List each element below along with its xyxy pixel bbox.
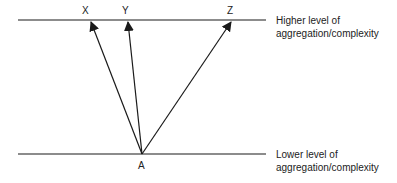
lower-level-label-line2: aggregation/complexity <box>276 161 379 174</box>
higher-level-label: Higher level of aggregation/complexity <box>276 14 379 40</box>
lower-level-label-line1: Lower level of <box>276 148 379 161</box>
arrow-a-to-z <box>142 22 231 154</box>
arrow-a-to-y <box>128 22 142 154</box>
point-label-x: X <box>82 5 89 16</box>
higher-level-label-line1: Higher level of <box>276 14 379 27</box>
arrow-a-to-x <box>91 22 142 154</box>
higher-level-label-line2: aggregation/complexity <box>276 27 379 40</box>
lower-level-label: Lower level of aggregation/complexity <box>276 148 379 174</box>
point-label-y: Y <box>122 5 129 16</box>
point-label-z: Z <box>227 5 233 16</box>
point-label-a: A <box>138 160 145 171</box>
